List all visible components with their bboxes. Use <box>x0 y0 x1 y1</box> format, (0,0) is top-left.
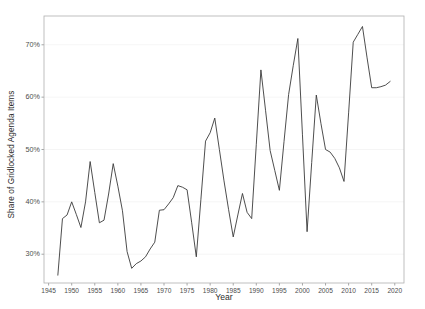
y-tick-label: 30% <box>14 249 40 258</box>
gridlock-line-chart: Share of Gridlocked Agenda Items Year 30… <box>0 0 425 309</box>
y-tick-label: 50% <box>14 145 40 154</box>
y-tick-label: 70% <box>14 40 40 49</box>
y-tick-label: 40% <box>14 197 40 206</box>
y-tick-label: 60% <box>14 92 40 101</box>
plot-area <box>0 0 425 309</box>
x-tick-label: 2020 <box>380 287 410 294</box>
